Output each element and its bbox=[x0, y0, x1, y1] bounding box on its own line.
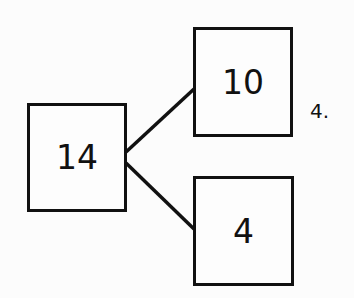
connector-line-top bbox=[126, 89, 194, 152]
problem-number-label: 4. bbox=[310, 101, 329, 121]
part-box-bottom: 4 bbox=[193, 176, 294, 286]
part-value-top: 10 bbox=[222, 66, 264, 99]
whole-box: 14 bbox=[27, 103, 127, 212]
whole-value: 14 bbox=[56, 141, 98, 174]
connector-line-bottom bbox=[126, 163, 194, 229]
part-value-bottom: 4 bbox=[233, 215, 254, 248]
part-box-top: 10 bbox=[193, 27, 293, 137]
